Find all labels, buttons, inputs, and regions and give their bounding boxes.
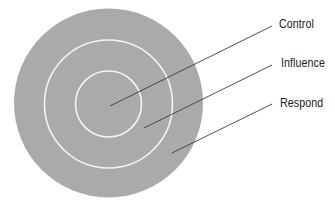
respond-circle	[14, 9, 203, 198]
respond-label: Respond	[280, 96, 323, 109]
control-label: Control	[279, 17, 314, 30]
influence-label: Influence	[281, 56, 325, 69]
